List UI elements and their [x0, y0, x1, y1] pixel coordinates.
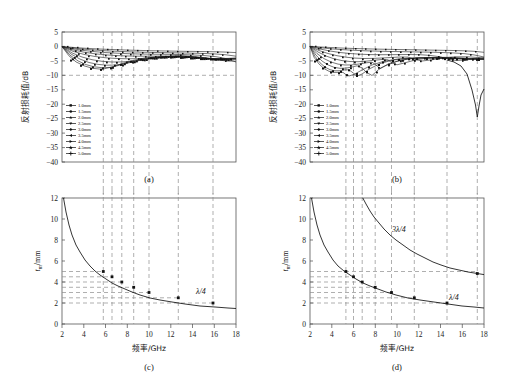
x-tick-label: 16 — [211, 330, 219, 339]
legend-item[interactable]: 4.5mm — [314, 145, 339, 150]
x-tick-label: 6 — [352, 330, 356, 339]
marker-2mm — [446, 302, 449, 305]
legend-item[interactable]: 2.5mm — [66, 121, 91, 126]
y-tick-label: 8 — [54, 236, 58, 245]
y-tick-label: −5 — [50, 57, 58, 66]
legend-label: 4.0mm — [78, 139, 91, 144]
x-tick-label: 12 — [415, 330, 423, 339]
y-tick-label: −15 — [294, 85, 306, 94]
panel-d-x-axis-title: 频率/GHz — [380, 343, 414, 353]
y-tick-label: 2 — [54, 299, 58, 308]
panel-c: 12 10 8 6 4 2 0 2 4 6 — [0, 190, 256, 389]
legend-label: 1.5mm — [326, 109, 339, 114]
legend-item[interactable]: 1.5mm — [314, 109, 339, 114]
marker-5mm — [345, 270, 348, 273]
x-tick-label: 4 — [82, 330, 86, 339]
panel-d-curve-three-quarter-wave — [363, 198, 484, 275]
legend-item[interactable]: 3.0mm — [66, 127, 91, 132]
x-tick-label: 8 — [125, 330, 129, 339]
panel-d: 12 10 8 6 4 2 0 2 4 6 8 — [256, 190, 512, 389]
panel-a-caption: (a) — [144, 174, 154, 184]
y-tick-label: −5 — [298, 57, 306, 66]
legend-label: 5.0mm — [78, 151, 91, 156]
legend-item[interactable]: 5.0mm — [66, 151, 91, 156]
y-tick-label: −25 — [294, 114, 306, 123]
marker-3mm — [148, 291, 151, 294]
legend-label: 3.0mm — [78, 127, 91, 132]
y-tick-label: 12 — [299, 194, 307, 203]
marker-3.5mm — [132, 286, 135, 289]
legend-item[interactable]: 4.0mm — [314, 139, 339, 144]
marker-2.5mm — [413, 296, 416, 299]
y-tick-label: −20 — [294, 100, 306, 109]
x-tick-label: 16 — [459, 330, 467, 339]
panel-c-annotation-quarter-wave: λ/4 — [195, 287, 206, 296]
y-tick-label: −15 — [46, 85, 58, 94]
y-tick-label: 4 — [302, 278, 306, 287]
panel-a-legend: 1.0mm 1.5mm 2.0mm 2.5mm — [66, 103, 91, 156]
legend-label: 2.5mm — [326, 121, 339, 126]
figure-container: 5 0 −5 −10 −15 −20 −25 −30 −35 −40 反射损耗值… — [0, 0, 512, 389]
y-tick-label: −10 — [294, 71, 306, 80]
y-tick-label: −25 — [46, 114, 58, 123]
y-tick-label: 5 — [54, 28, 58, 37]
legend-item[interactable]: 3.5mm — [66, 133, 91, 138]
panel-c-gridlines — [62, 190, 213, 324]
y-tick-label: −40 — [46, 158, 58, 167]
x-tick-label: 18 — [232, 330, 240, 339]
y-tick-label: 4 — [54, 278, 58, 287]
x-tick-label: 12 — [167, 330, 175, 339]
svg-text:tm/mm: tm/mm — [281, 250, 291, 272]
panel-d-annotation-three-quarter-wave: 3λ/4 — [391, 225, 406, 234]
y-tick-label: 12 — [51, 194, 59, 203]
legend-item[interactable]: 3.0mm — [314, 127, 339, 132]
panel-c-x-ticks: 2 4 6 8 10 12 14 16 18 — [60, 324, 240, 339]
panel-b-legend: 1.0mm 1.5mm 2.0mm 2.5mm — [314, 103, 339, 156]
legend-item[interactable]: 2.5mm — [314, 121, 339, 126]
marker-2mm — [212, 302, 215, 305]
y-tick-label: 6 — [54, 257, 58, 266]
legend-item[interactable]: 2.0mm — [314, 115, 339, 120]
x-tick-label: 2 — [60, 330, 64, 339]
legend-item[interactable]: 1.5mm — [66, 109, 91, 114]
legend-item[interactable]: 1.0mm — [314, 103, 339, 108]
legend-item[interactable]: 1.0mm — [66, 103, 91, 108]
legend-item[interactable]: 4.5mm — [66, 145, 91, 150]
panel-d-x-ticks: 2 4 6 8 10 12 14 16 18 — [308, 324, 488, 339]
panel-c-x-axis-title: 频率/GHz — [132, 343, 166, 353]
panel-c-y-ticks: 12 10 8 6 4 2 0 — [51, 194, 66, 329]
y-tick-label: 0 — [54, 320, 58, 329]
legend-item[interactable]: 4.0mm — [66, 139, 91, 144]
x-tick-label: 14 — [189, 330, 197, 339]
marker-4.5mm — [352, 275, 355, 278]
panel-b-caption: (b) — [392, 174, 402, 184]
legend-item[interactable]: 3.5mm — [314, 133, 339, 138]
y-tick-label: 0 — [302, 320, 306, 329]
y-tick-label: −40 — [294, 158, 306, 167]
y-tick-label: −35 — [46, 143, 58, 152]
svg-text:tm/mm: tm/mm — [33, 250, 43, 272]
legend-item[interactable]: 2.0mm — [66, 115, 91, 120]
y-tick-label: −35 — [294, 143, 306, 152]
panel-a-y-axis-title: 反射损耗值/dB — [20, 71, 30, 124]
marker-3mm — [390, 291, 393, 294]
y-tick-label: 6 — [302, 257, 306, 266]
legend-label: 1.0mm — [78, 103, 91, 108]
y-tick-label: 8 — [302, 236, 306, 245]
x-tick-label: 6 — [104, 330, 108, 339]
y-tick-label: 10 — [299, 215, 307, 224]
legend-label: 3.0mm — [326, 127, 339, 132]
x-tick-label: 4 — [330, 330, 334, 339]
panel-c-y-axis-title: tm/mm — [33, 250, 43, 272]
legend-label: 3.5mm — [326, 133, 339, 138]
x-tick-label: 10 — [393, 330, 401, 339]
legend-label: 1.0mm — [326, 103, 339, 108]
y-tick-label: 10 — [51, 215, 59, 224]
panel-d-gridlines — [310, 190, 477, 324]
panel-b-y-axis-title: 反射损耗值/dB — [268, 71, 278, 124]
legend-item[interactable]: 5.0mm — [314, 151, 339, 156]
x-tick-label: 18 — [480, 330, 488, 339]
y-tick-label: 0 — [54, 42, 58, 51]
legend-label: 2.0mm — [78, 115, 91, 120]
legend-label: 2.0mm — [326, 115, 339, 120]
